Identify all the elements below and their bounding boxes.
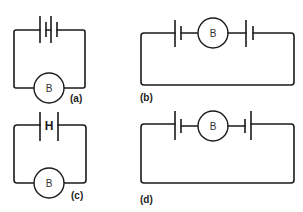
bulb-c-label: B <box>46 178 53 189</box>
bulb-b-label: B <box>210 28 217 39</box>
bulb-a-label: B <box>46 83 53 94</box>
panel-label-c: (c) <box>71 190 83 201</box>
circuit-diagram-figure: B (a) B (b) H B (c) B (d) <box>0 0 303 212</box>
cell-c-h-symbol: H <box>45 119 54 133</box>
circuit-c: H B (c) <box>14 112 86 201</box>
panel-label-b: (b) <box>140 92 153 103</box>
panel-label-a: (a) <box>70 93 82 104</box>
bulb-d-label: B <box>210 121 217 132</box>
panel-label-d: (d) <box>140 194 153 205</box>
circuit-d: B (d) <box>140 111 294 205</box>
circuit-a: B (a) <box>14 16 85 104</box>
circuit-b: B (b) <box>140 18 294 103</box>
